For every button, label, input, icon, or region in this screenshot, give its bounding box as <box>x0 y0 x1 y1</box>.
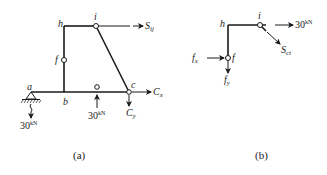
node-label-i: i <box>258 10 261 21</box>
figure-b: 30kN Sci fx fy h i f (b) <box>192 10 313 162</box>
node-label-a: a <box>27 81 32 92</box>
caption-b: (b) <box>255 149 268 162</box>
c-x-label: Cx <box>153 86 164 99</box>
f-y-label: fy <box>224 74 231 87</box>
hinge-i <box>258 23 263 28</box>
s-ij-label: Sij <box>145 20 154 33</box>
node-label-c: c <box>131 79 136 90</box>
c-y-label: Cy <box>126 107 137 120</box>
support-load-label: 30kN <box>20 120 38 131</box>
node-label-h: h <box>220 18 225 29</box>
f-x-label: fx <box>192 52 199 65</box>
s-ci-arrow <box>267 32 280 44</box>
node-label-f: f <box>55 54 59 65</box>
figure-a: 30kN 30kN Sij Cx Cy h i f a b c (a) <box>20 11 164 162</box>
member-diagonal-i-c <box>96 26 129 92</box>
hinge-mid <box>95 85 100 90</box>
node-label-f: f <box>232 52 236 63</box>
load-i-label: 30kN <box>295 19 313 30</box>
caption-a: (a) <box>73 149 86 162</box>
free-body-diagrams: 30kN 30kN Sij Cx Cy h i f a b c (a) 30kN <box>0 0 327 175</box>
hinge-f <box>226 56 231 61</box>
node-label-i: i <box>94 11 97 22</box>
mid-load-label: 30kN <box>88 110 106 121</box>
support-load-arrow <box>30 104 32 118</box>
hinge-i <box>94 24 99 29</box>
hinge-f <box>62 58 67 63</box>
hinge-c <box>127 90 132 95</box>
node-label-b: b <box>63 96 68 107</box>
pin-support-icon <box>21 92 41 103</box>
node-label-h: h <box>58 18 63 29</box>
s-ci-label: Sci <box>281 44 291 57</box>
